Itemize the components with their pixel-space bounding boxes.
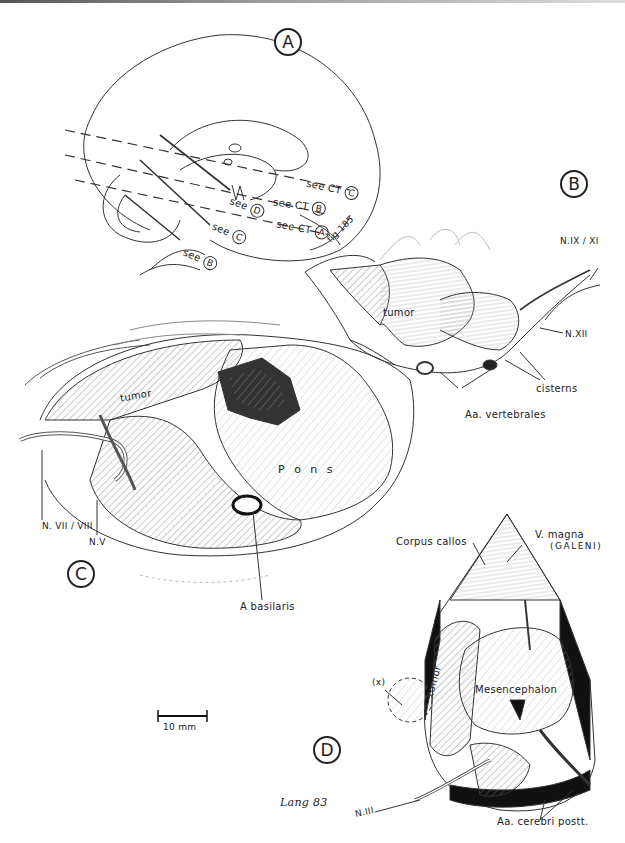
- scale-bar: [158, 710, 207, 722]
- label-n-xii: N.XII: [565, 330, 588, 339]
- panel-badge-a: A: [274, 28, 302, 56]
- panel-badge-d: D: [313, 736, 341, 764]
- label-tumor-b: tumor: [383, 308, 415, 318]
- label-n-v: N.V: [89, 538, 106, 547]
- panel-badge-c: C: [67, 560, 95, 588]
- panel-badge-b: B: [560, 170, 588, 198]
- label-mesencephalon: Mesencephalon: [475, 685, 557, 695]
- anatomical-drawing: [0, 0, 625, 843]
- ref-circle: B: [311, 201, 327, 217]
- label-cisterns: cisterns: [536, 384, 577, 394]
- label-galeni: (GALENI): [550, 542, 602, 551]
- artist-signature: Lang 83: [280, 797, 328, 808]
- panel-d-drawing: [375, 514, 595, 820]
- panel-b-drawing: [305, 229, 600, 388]
- scale-bar-label: 10 mm: [163, 723, 196, 732]
- label-aa-vertebrales: Aa. vertebrales: [465, 410, 546, 420]
- label-pons: P o n s: [278, 464, 336, 475]
- ref-text: see CT: [273, 196, 310, 212]
- label-x-marker: (x): [372, 678, 385, 687]
- label-corpus-callos: Corpus callos: [396, 537, 467, 547]
- illustration-canvas: A B C D see CT C see CT B see CT A see D…: [0, 0, 625, 843]
- label-n-vii-viii: N. VII / VIII: [42, 522, 93, 531]
- label-n-ix-xi: N.IX / XI: [560, 237, 599, 246]
- label-aa-cerebri-postt: Aa. cerebri postt.: [497, 817, 589, 827]
- ref-circle: C: [343, 185, 360, 202]
- label-a-basilaris: A basilaris: [240, 602, 295, 612]
- panel-c-drawing: [20, 321, 414, 600]
- label-v-magna: V. magna: [535, 530, 584, 540]
